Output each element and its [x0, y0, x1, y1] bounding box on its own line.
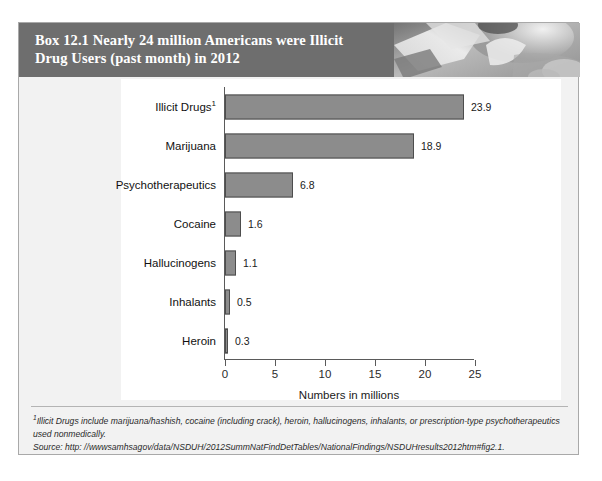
- category-footnote-marker: 1: [212, 99, 216, 108]
- bar: [225, 289, 230, 314]
- bar-value-label: 1.1: [243, 257, 258, 269]
- x-axis-tick-label: 25: [460, 368, 490, 380]
- x-axis-tick: [475, 360, 476, 366]
- footnote-body: Illicit Drugs include marijuana/hashish,…: [33, 416, 560, 439]
- footnote-text: 1Illicit Drugs include marijuana/hashish…: [33, 416, 560, 439]
- bar-chart: Numbers in millions 0510152025Illicit Dr…: [121, 79, 561, 400]
- bar-value-label: 0.3: [235, 335, 250, 347]
- x-axis-tick: [425, 360, 426, 366]
- footnote-block: 1Illicit Drugs include marijuana/hashish…: [33, 415, 570, 454]
- category-label: Heroin: [182, 335, 216, 347]
- x-axis-tick-label: 10: [310, 368, 340, 380]
- bar-value-label: 0.5: [237, 296, 252, 308]
- x-axis-tick-label: 0: [210, 368, 240, 380]
- bar-value-label: 18.9: [421, 140, 441, 152]
- category-label: Inhalants: [169, 296, 216, 308]
- page-title: Box 12.1 Nearly 24 million Americans wer…: [35, 31, 365, 67]
- x-axis-tick: [325, 360, 326, 366]
- category-label: Cocaine: [174, 218, 216, 230]
- bar-value-label: 1.6: [248, 218, 263, 230]
- bar-row: Hallucinogens1.1: [121, 243, 561, 282]
- box-container: Box 12.1 Nearly 24 million Americans wer…: [18, 22, 579, 455]
- x-axis-tick-label: 15: [360, 368, 390, 380]
- bar-value-label: 23.9: [471, 101, 491, 113]
- bar-row: Inhalants0.5: [121, 282, 561, 321]
- category-label: Psychotherapeutics: [116, 179, 216, 191]
- bar: [225, 250, 236, 275]
- bar-row: Marijuana18.9: [121, 126, 561, 165]
- bar: [225, 211, 241, 236]
- bar: [225, 328, 228, 353]
- x-axis-tick-label: 20: [410, 368, 440, 380]
- bar-row: Psychotherapeutics6.8: [121, 165, 561, 204]
- x-axis-title: Numbers in millions: [224, 389, 474, 401]
- x-axis-tick: [275, 360, 276, 366]
- footnote-source: Source: http: //wwwsamhsagov/data/NSDUH/…: [33, 441, 570, 454]
- x-axis-tick: [225, 360, 226, 366]
- category-label: Marijuana: [166, 140, 217, 152]
- bar-row: Cocaine1.6: [121, 204, 561, 243]
- grayscale-abstract-photo: [394, 23, 580, 77]
- bar-row: Illicit Drugs123.9: [121, 87, 561, 126]
- bar-value-label: 6.8: [300, 179, 315, 191]
- footnote-divider: [31, 406, 568, 407]
- bar-row: Heroin0.3: [121, 321, 561, 360]
- page-root: Box 12.1 Nearly 24 million Americans wer…: [0, 0, 602, 481]
- category-label: Illicit Drugs1: [155, 101, 216, 113]
- chart-panel: Numbers in millions 0510152025Illicit Dr…: [121, 79, 561, 400]
- category-label: Hallucinogens: [144, 257, 216, 269]
- x-axis-tick: [375, 360, 376, 366]
- bar: [225, 172, 293, 197]
- box-header: Box 12.1 Nearly 24 million Americans wer…: [19, 23, 580, 77]
- x-axis-tick-label: 5: [260, 368, 290, 380]
- bar: [225, 94, 464, 119]
- bar: [225, 133, 414, 158]
